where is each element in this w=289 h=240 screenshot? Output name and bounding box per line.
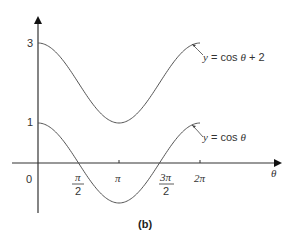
- x-tick-pi: π: [115, 172, 121, 184]
- figure-caption: (b): [138, 218, 152, 230]
- pointer-bot-head: [192, 125, 196, 128]
- label-cos-plus-2: y = cos θ + 2: [202, 51, 265, 63]
- label-cos: y = cos θ: [202, 131, 247, 143]
- x-tick-3pi-half-den: 2: [163, 185, 169, 197]
- x-tick-2pi: 2π: [194, 172, 206, 184]
- y-tick-3: 3: [27, 37, 33, 49]
- x-tick-3pi-half-num: 3π: [159, 171, 172, 183]
- x-tick-pi-half-den: 2: [75, 185, 81, 197]
- origin-label: 0: [26, 173, 32, 185]
- x-tick-pi-half-num: π: [75, 171, 81, 183]
- cosine-graph: 3 1 0 π 2 π 3π 2 2π θ y = cos θ + 2 y = …: [0, 0, 289, 240]
- x-axis-label: θ: [271, 167, 277, 179]
- y-tick-1: 1: [27, 116, 33, 128]
- curve-cos-plus-2: [38, 43, 200, 123]
